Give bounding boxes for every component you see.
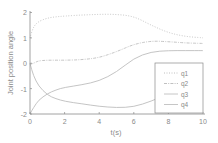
ytick-label: 1 — [23, 35, 27, 42]
legend-label-q1: q1 — [181, 70, 189, 78]
legend: q1 q2 q3 q4 — [155, 63, 203, 113]
legend-box — [155, 63, 203, 113]
joint-angle-chart: -2 -1 0 1 2 0 2 4 6 8 10 t(s) Joint posi… — [0, 0, 218, 143]
legend-label-q4: q4 — [181, 101, 189, 109]
y-axis-label: Joint position angle — [6, 31, 15, 95]
legend-label-q2: q2 — [181, 80, 189, 88]
xtick-label: 10 — [199, 118, 207, 125]
x-axis-label: t(s) — [111, 128, 122, 137]
xtick-label: 6 — [132, 118, 136, 125]
ytick-label: 0 — [23, 60, 27, 67]
series-line-q2 — [30, 41, 203, 64]
series-line-q1 — [30, 14, 203, 38]
xtick-label: 0 — [28, 118, 32, 125]
ytick-label: -1 — [21, 86, 27, 93]
xtick-label: 2 — [63, 118, 67, 125]
legend-label-q3: q3 — [181, 91, 189, 99]
xtick-label: 8 — [166, 118, 170, 125]
xtick-label: 4 — [97, 118, 101, 125]
ytick-label: 2 — [23, 9, 27, 16]
ytick-label: -2 — [21, 111, 27, 118]
